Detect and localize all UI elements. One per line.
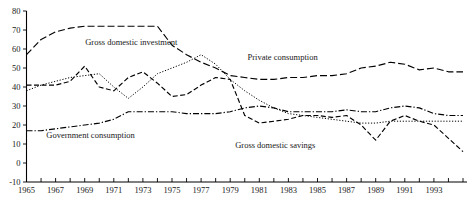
series-line-government-consumption xyxy=(27,106,464,131)
x-tick-label: 1981 xyxy=(251,185,268,195)
series-label-private-consumption: Private consumption xyxy=(248,52,319,62)
x-tick-label: 1967 xyxy=(47,185,64,195)
y-tick-label: 70 xyxy=(12,25,21,35)
y-tick-label: 50 xyxy=(12,63,21,73)
series-line-private-consumption xyxy=(27,26,464,79)
x-tick-label: 1971 xyxy=(105,185,122,195)
x-tick-label: 1977 xyxy=(193,185,210,195)
y-tick-label: 30 xyxy=(12,101,21,111)
series-annotations: Private consumptionGross domestic invest… xyxy=(46,37,318,150)
series-line-gross-domestic-investment xyxy=(27,55,464,123)
series-label-gross-domestic-savings: Gross domestic savings xyxy=(235,140,315,150)
x-tick-label: 1987 xyxy=(338,185,355,195)
y-tick-label: 80 xyxy=(12,6,21,16)
line-chart: -1001020304050607080 1965196719691971197… xyxy=(0,0,471,206)
x-tick-label: 1973 xyxy=(134,185,151,195)
chart-container: -1001020304050607080 1965196719691971197… xyxy=(0,0,471,206)
series-label-gross-domestic-investment: Gross domestic investment xyxy=(85,37,178,47)
series-label-government-consumption: Government consumption xyxy=(46,130,135,140)
y-tick-label: 0 xyxy=(16,158,20,168)
y-tick-label: 40 xyxy=(12,82,21,92)
x-tick-label: 1985 xyxy=(309,185,326,195)
x-tick-label: 1979 xyxy=(222,185,239,195)
x-tick-label: 1993 xyxy=(425,185,442,195)
x-tick-label: 1989 xyxy=(367,185,384,195)
x-tick-label: 1969 xyxy=(76,185,93,195)
x-tick-label: 1983 xyxy=(280,185,297,195)
y-axis-tick-labels: -1001020304050607080 xyxy=(9,6,20,187)
cropped-title-remnant xyxy=(150,0,470,4)
x-tick-label: 1991 xyxy=(396,185,413,195)
x-tick-label: 1965 xyxy=(18,185,35,195)
y-tick-label: 20 xyxy=(12,120,21,130)
y-tick-label: 10 xyxy=(12,139,21,149)
x-tick-label: 1975 xyxy=(164,185,181,195)
y-tick-label: 60 xyxy=(12,44,21,54)
x-axis-tick-labels: 1965196719691971197319751977197919811983… xyxy=(18,185,442,195)
